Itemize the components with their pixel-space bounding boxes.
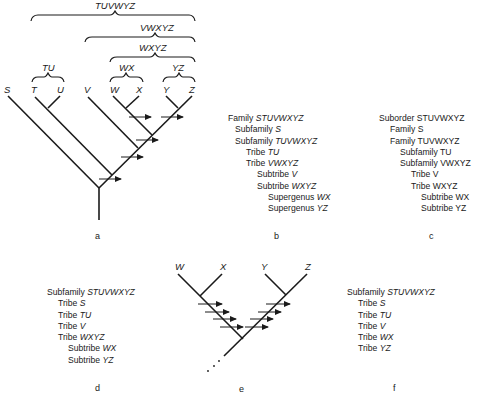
apomorphy-arrows-a [99, 117, 183, 179]
hier-line: Tribe V [47, 321, 135, 332]
hier-line: Subfamily VWXYZ [379, 158, 471, 169]
bracket-label: TUVWYZ [95, 0, 136, 11]
taxon-label: V [84, 84, 92, 95]
panel-letter-d: d [95, 383, 100, 393]
bracket-label: WXYZ [139, 42, 168, 53]
classification-d: Subfamily STUVWXYZ Tribe S Tribe TU Trib… [47, 287, 135, 366]
hier-line: Supergenus YZ [228, 203, 331, 214]
panel-letter-f: f [393, 383, 396, 393]
hier-line: Subfamily STUVWXYZ [347, 287, 435, 298]
hier-line: Tribe VWXYZ [228, 158, 331, 169]
taxon-labels-a: S T U V W X Y Z [4, 84, 196, 95]
classification-f: Subfamily STUVWXYZ Tribe S Tribe TU Trib… [347, 287, 435, 355]
hier-line: Tribe YZ [347, 343, 435, 354]
panel-letter-e: e [239, 384, 244, 394]
hier-line: Subtribe WXYZ [228, 181, 331, 192]
taxon-label: U [57, 84, 64, 95]
classification-c: Suborder STUVWXYZ Family S Family TUVWXY… [379, 113, 471, 215]
cladogram-e [178, 274, 307, 356]
panel-letter-c: c [429, 231, 434, 241]
taxon-label: Z [304, 261, 312, 272]
hier-line: Tribe WX [347, 332, 435, 343]
taxon-label: Y [261, 261, 268, 272]
bracket-label: YZ [172, 62, 185, 73]
hier-line: Tribe V [347, 321, 435, 332]
hier-line: Subtribe WX [47, 343, 135, 354]
hier-line: Tribe TU [228, 147, 331, 158]
hier-line: Subtribe WX [379, 192, 471, 203]
taxon-label: W [110, 84, 120, 95]
hier-line: Tribe V [379, 169, 471, 180]
classification-b: Family STUVWXYZ Subfamily S Subfamily TU… [228, 113, 331, 215]
hier-line: Subtribe V [228, 169, 331, 180]
hier-line: Tribe S [47, 298, 135, 309]
hier-line: Family STUVWXYZ [228, 113, 331, 124]
bracket-label: VWXYZ [140, 22, 175, 33]
taxon-label: W [175, 261, 185, 272]
hier-line: Tribe S [347, 298, 435, 309]
taxon-labels-e: W X Y Z [175, 261, 312, 272]
hier-line: Tribe TU [347, 310, 435, 321]
taxon-label: X [219, 261, 227, 272]
bracket-label: TU [42, 62, 55, 73]
panel-letter-b: b [274, 231, 279, 241]
taxon-label: Z [188, 84, 196, 95]
hier-line: Subfamily S [228, 124, 331, 135]
hier-line: Suborder STUVWXYZ [379, 113, 471, 124]
hier-line: Subfamily TUVWXYZ [228, 136, 331, 147]
hier-line: Subfamily STUVWXYZ [47, 287, 135, 298]
ellipsis-dots [207, 360, 220, 372]
cladogram-a [8, 96, 192, 220]
hier-line: Tribe TU [47, 310, 135, 321]
hier-line: Subfamily TU [379, 147, 471, 158]
hier-line: Tribe WXYZ [47, 332, 135, 343]
hier-line: Family TUVWXYZ [379, 136, 471, 147]
taxon-label: X [135, 84, 143, 95]
panel-letter-a: a [95, 231, 100, 241]
taxon-label: T [31, 84, 38, 95]
taxon-label: Y [163, 84, 170, 95]
hier-line: Subtribe YZ [47, 355, 135, 366]
bracket-label: WX [119, 62, 135, 73]
hier-line: Supergenus WX [228, 192, 331, 203]
hier-line: Tribe WXYZ [379, 181, 471, 192]
hier-line: Subtribe YZ [379, 203, 471, 214]
hier-line: Family S [379, 124, 471, 135]
taxon-label: S [4, 84, 11, 95]
